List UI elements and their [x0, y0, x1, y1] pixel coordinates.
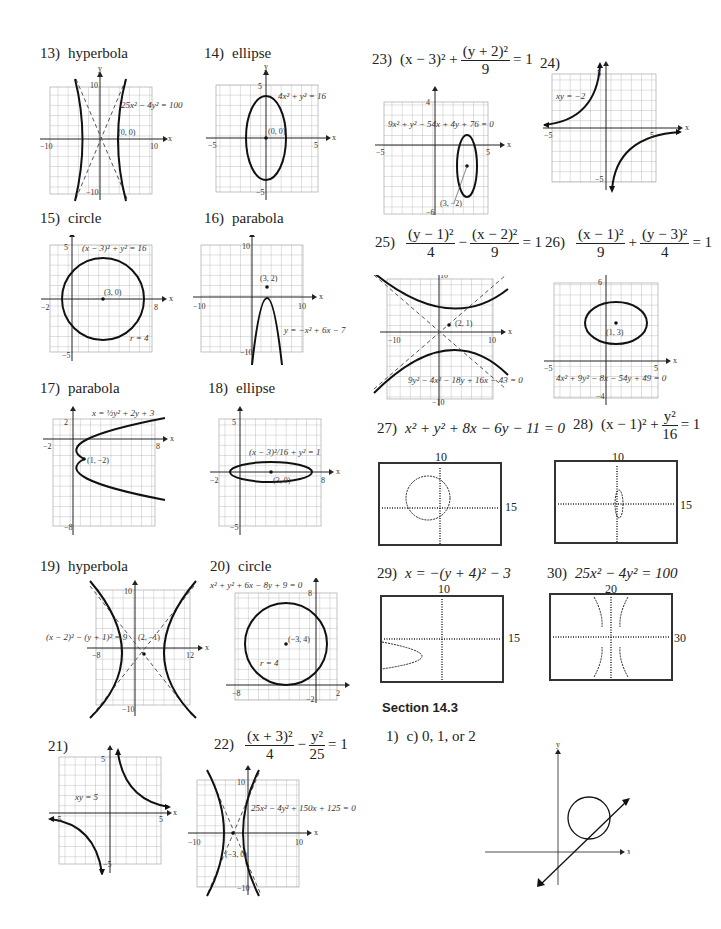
svg-text:x: x — [314, 828, 318, 837]
problem-number: 28) — [573, 416, 593, 432]
svg-text:25x² − 4y² = 100: 25x² − 4y² = 100 — [121, 100, 183, 110]
svg-text:x: x — [673, 356, 677, 365]
problem-answer: c) 0, 1, or 2 — [407, 728, 476, 744]
svg-text:(1, −2): (1, −2) — [87, 456, 109, 465]
problem-17-label: 17)parabola — [40, 380, 120, 397]
problem-27-label: 27)x² + y² + 8x − 6y − 11 = 0 — [377, 420, 565, 437]
svg-text:−2: −2 — [306, 695, 315, 704]
svg-text:−10: −10 — [40, 142, 53, 151]
fraction: (y − 3)²4 — [640, 226, 689, 261]
svg-text:2: 2 — [64, 418, 68, 427]
svg-text:−5: −5 — [595, 175, 604, 184]
svg-text:−2: −2 — [210, 476, 219, 485]
svg-text:10: 10 — [124, 587, 132, 596]
problem-number: 25) — [375, 234, 395, 250]
svg-text:−2: −2 — [41, 303, 50, 312]
svg-text:5: 5 — [64, 243, 68, 252]
problem-answer: parabola — [232, 210, 284, 226]
problem-answer: ellipse — [232, 45, 271, 61]
problem-number: 15) — [40, 210, 60, 226]
svg-text:5: 5 — [232, 418, 236, 427]
problem-30-label: 30)25x² − 4y² = 100 — [547, 565, 678, 582]
svg-text:10: 10 — [90, 81, 98, 90]
problem-answer: circle — [238, 558, 271, 574]
svg-text:x: x — [169, 294, 173, 303]
svg-text:−5: −5 — [544, 364, 553, 373]
svg-text:5: 5 — [159, 815, 163, 824]
svg-text:r = 4: r = 4 — [260, 658, 279, 668]
fraction: y²25 — [309, 728, 325, 763]
svg-text:x: x — [336, 467, 340, 476]
svg-text:8: 8 — [308, 589, 312, 598]
graph-23-ellipse: −5 5 4 −6 9x² + y² − 54x + 4y + 76 = 0 (… — [372, 85, 522, 215]
svg-text:8: 8 — [154, 303, 158, 312]
svg-text:4x² + y² = 16: 4x² + y² = 16 — [278, 91, 327, 101]
graph-22-hyperbola: −10 10 10 −10 25x² − 4y² + 150x + 125 = … — [185, 765, 360, 905]
svg-text:−8: −8 — [232, 689, 241, 698]
svg-text:−5: −5 — [53, 815, 62, 824]
svg-text:(0, 0): (0, 0) — [118, 128, 136, 137]
problem-number: 29) — [377, 565, 397, 581]
svg-text:−5: −5 — [544, 131, 553, 140]
svg-text:(0, 0): (0, 0) — [268, 127, 286, 136]
svg-text:(−3, 4): (−3, 4) — [288, 635, 310, 644]
svg-text:x: x — [173, 808, 177, 817]
svg-text:(3, 2): (3, 2) — [260, 274, 278, 283]
problem-23-label: 23)(x − 3)² +(y + 2)²9= 1 — [372, 43, 533, 78]
section-answer-1: 1)c) 0, 1, or 2 — [386, 728, 476, 745]
svg-text:y = −x² + 6x − 7: y = −x² + 6x − 7 — [283, 325, 346, 335]
problem-answer: parabola — [68, 380, 120, 396]
problem-number: 16) — [204, 210, 224, 226]
svg-text:−10: −10 — [388, 336, 401, 345]
problem-number: 26) — [545, 234, 565, 250]
svg-text:xy = −2: xy = −2 — [555, 91, 586, 101]
svg-text:−5: −5 — [103, 860, 112, 869]
svg-text:x² + y² + 6x − 8y + 9 = 0: x² + y² + 6x − 8y + 9 = 0 — [209, 580, 303, 590]
svg-text:x: x — [627, 847, 630, 856]
svg-text:−5: −5 — [376, 148, 385, 157]
svg-text:(x − 3)²/16 + y² = 1: (x − 3)²/16 + y² = 1 — [249, 447, 321, 457]
graph-13-hyperbola: −10 10 10 −10 25x² − 4y² = 100 (0, 0) x … — [38, 65, 188, 210]
svg-text:y: y — [264, 65, 268, 71]
svg-text:10: 10 — [488, 336, 496, 345]
fraction: (y + 2)²9 — [461, 43, 510, 78]
graph-16-parabola: −10 10 10 −10 y = −x² + 6x − 7 (3, 2) x — [190, 235, 360, 375]
calculator-graph-30 — [549, 593, 673, 681]
svg-text:−5: −5 — [62, 351, 71, 360]
problem-15-label: 15)circle — [40, 210, 101, 227]
svg-text:−4: −4 — [596, 392, 605, 401]
problem-number: 13) — [40, 45, 60, 61]
window-xmax: 30 — [674, 631, 686, 646]
problem-number: 30) — [547, 565, 567, 581]
problem-number: 1) — [386, 728, 399, 744]
svg-text:x = ½y² + 2y + 3: x = ½y² + 2y + 3 — [91, 408, 155, 418]
window-xmax: 15 — [508, 631, 520, 646]
svg-text:5: 5 — [597, 69, 601, 78]
problem-14-label: 14)ellipse — [204, 45, 271, 62]
graph-20-circle: −8 2 8 −2 x² + y² + 6x − 8y + 9 = 0 (−3,… — [208, 578, 358, 718]
svg-text:−10: −10 — [86, 188, 99, 197]
svg-text:−5: −5 — [230, 523, 239, 532]
graph-24-hyperbola: −5 5 5 −5 xy = −2 x — [540, 60, 715, 195]
problem-number: 19) — [40, 558, 60, 574]
svg-text:−10: −10 — [240, 348, 253, 357]
graph-25-hyperbola: −10 10 10 −10 9y² − 4x² − 18y + 16x − 43… — [370, 275, 530, 410]
problem-number: 14) — [204, 45, 224, 61]
svg-text:−8: −8 — [64, 523, 73, 532]
problem-16-label: 16)parabola — [204, 210, 284, 227]
svg-text:(3, 0): (3, 0) — [104, 288, 122, 297]
svg-text:r = 4: r = 4 — [130, 333, 149, 343]
svg-text:6: 6 — [598, 278, 602, 287]
svg-text:−5: −5 — [256, 188, 265, 197]
svg-text:x: x — [168, 134, 172, 143]
svg-text:10: 10 — [150, 142, 158, 151]
problem-13-label: 13)hyperbola — [40, 45, 128, 62]
svg-text:5: 5 — [486, 148, 490, 157]
problem-number: 22) — [214, 736, 234, 752]
svg-text:y: y — [556, 740, 560, 749]
svg-text:−8: −8 — [92, 651, 101, 660]
problem-number: 18) — [208, 380, 228, 396]
problem-answer: ellipse — [236, 380, 275, 396]
svg-text:2: 2 — [336, 689, 340, 698]
svg-text:−2: −2 — [43, 442, 52, 451]
